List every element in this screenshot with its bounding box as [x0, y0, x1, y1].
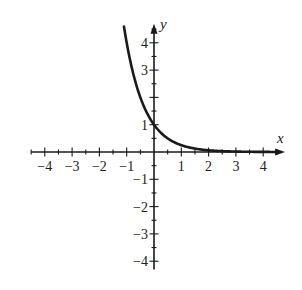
x-tick-label: 1	[178, 159, 185, 174]
graph-figure: −4−3−2−11234−4−3−2−1134xy x y	[0, 0, 302, 290]
y-tick-label: −2	[133, 200, 148, 215]
function-plot: −4−3−2−11234−4−3−2−1134xy	[0, 0, 302, 290]
x-tick-label: 4	[260, 159, 267, 174]
x-tick-label: −1	[119, 159, 134, 174]
x-axis-title: x	[276, 130, 284, 146]
x-tick-label: 2	[205, 159, 212, 174]
y-tick-label: 1	[141, 118, 148, 133]
y-tick-label: 3	[141, 63, 148, 78]
y-tick-label: −1	[133, 172, 148, 187]
x-tick-label: −2	[92, 159, 107, 174]
x-tick-label: −3	[65, 159, 80, 174]
x-tick-label: −4	[37, 159, 52, 174]
y-axis-title: y	[158, 16, 167, 32]
x-tick-label: 3	[232, 159, 239, 174]
y-tick-label: 4	[141, 36, 148, 51]
y-tick-label: −3	[133, 227, 148, 242]
y-tick-label: −4	[133, 254, 148, 269]
